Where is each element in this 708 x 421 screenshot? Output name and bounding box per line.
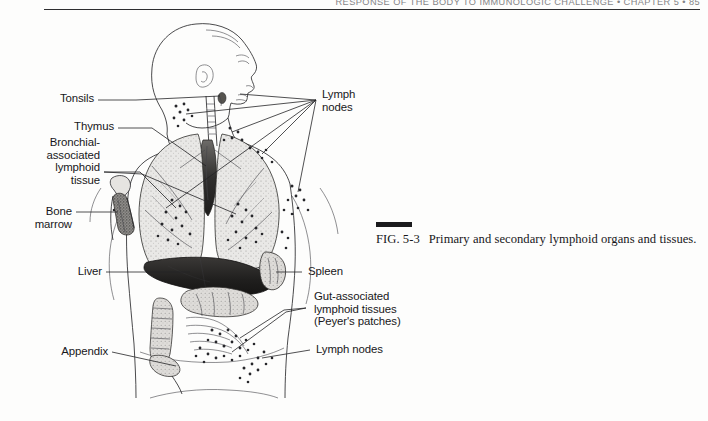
label-lymph-nodes-upper: Lymph nodes xyxy=(322,88,392,113)
liver xyxy=(144,257,272,295)
running-head-rule xyxy=(44,9,700,10)
balt-lymphoid-tissue xyxy=(157,199,264,250)
figure-caption-block: FIG. 5-3Primary and secondary lymphoid o… xyxy=(376,222,702,247)
caption-line: FIG. 5-3Primary and secondary lymphoid o… xyxy=(376,232,702,247)
running-head: RESPONSE OF THE BODY TO IMMUNOLOGIC CHAL… xyxy=(0,0,708,10)
spleen xyxy=(260,252,286,290)
abdominal-organs xyxy=(150,287,258,394)
axillary-lymph-nodes xyxy=(113,185,310,216)
tonsils xyxy=(218,93,226,107)
anatomical-illustration xyxy=(0,0,708,421)
leader-lymph-nodes-upper xyxy=(166,94,316,208)
lower-lymph-nodes xyxy=(239,209,290,384)
lungs xyxy=(139,134,279,278)
running-head-text: RESPONSE OF THE BODY TO IMMUNOLOGIC CHAL… xyxy=(336,0,700,7)
leader-thymus xyxy=(118,128,206,166)
leader-galt xyxy=(240,308,306,338)
leader-balt xyxy=(104,172,176,208)
gut-associated-lymphoid-tissue xyxy=(195,329,256,364)
figure-number: FIG. 5-3 xyxy=(376,232,420,246)
figure-caption-text: Primary and secondary lymphoid organs an… xyxy=(429,232,697,246)
leader-tonsils xyxy=(98,96,220,100)
label-bone-marrow: Bone marrow xyxy=(8,205,72,230)
leader-lymph-nodes-lower xyxy=(262,350,310,358)
bone-marrow xyxy=(110,176,134,240)
body-outline xyxy=(90,24,338,398)
label-tonsils: Tonsils xyxy=(10,92,94,105)
leader-appendix xyxy=(112,352,176,366)
thymus-and-trachea xyxy=(198,96,217,216)
leader-balt-2 xyxy=(104,172,236,214)
label-thymus: Thymus xyxy=(22,120,114,133)
cervical-lymph-nodes xyxy=(173,103,274,164)
textbook-figure-page: RESPONSE OF THE BODY TO IMMUNOLOGIC CHAL… xyxy=(0,0,708,421)
label-spleen: Spleen xyxy=(308,265,378,278)
label-bronchial-associated-lymphoid-tissue: Bronchial- associated lymphoid tissue xyxy=(8,136,100,186)
label-gut-associated-lymphoid-tissues: Gut-associated lymphoid tissues (Peyer's… xyxy=(314,290,444,328)
leader-galt-2 xyxy=(232,308,306,352)
label-appendix: Appendix xyxy=(30,345,108,358)
label-liver: Liver xyxy=(36,265,102,278)
caption-rule xyxy=(376,222,412,227)
label-lymph-nodes-lower: Lymph nodes xyxy=(316,343,416,356)
